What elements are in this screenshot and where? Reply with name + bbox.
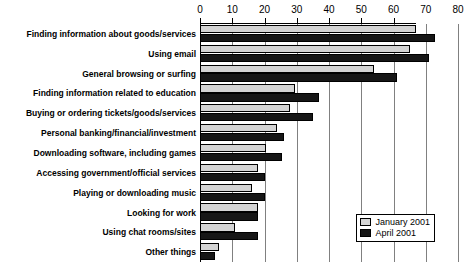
bar-january xyxy=(200,203,258,211)
legend: January 2001 April 2001 xyxy=(356,214,435,242)
bar-january xyxy=(200,124,277,132)
bar-january xyxy=(200,164,258,172)
bar-april xyxy=(200,93,319,101)
bar-january xyxy=(200,223,235,231)
bar-chart: 01020304050607080 Finding information ab… xyxy=(0,0,470,273)
bar-april xyxy=(200,252,215,260)
bar-january xyxy=(200,144,266,152)
bar-april xyxy=(200,73,397,81)
legend-swatch-april xyxy=(360,229,371,237)
x-axis-line xyxy=(200,23,416,24)
bar-april xyxy=(200,212,258,220)
legend-item-january: January 2001 xyxy=(360,217,430,228)
legend-label-january: January 2001 xyxy=(375,217,430,227)
bar-april xyxy=(200,173,265,181)
bar-april xyxy=(200,153,282,161)
bar-april xyxy=(200,34,435,42)
legend-swatch-january xyxy=(360,218,371,226)
bar-january xyxy=(200,184,252,192)
bar-january xyxy=(200,65,374,73)
bar-april xyxy=(200,113,313,121)
bar-january xyxy=(200,45,410,53)
bar-january xyxy=(200,243,219,251)
bar-january xyxy=(200,25,416,33)
bar-april xyxy=(200,193,265,201)
legend-item-april: April 2001 xyxy=(360,228,430,239)
bar-april xyxy=(200,54,429,62)
bar-april xyxy=(200,133,284,141)
legend-label-april: April 2001 xyxy=(375,228,416,238)
bar-january xyxy=(200,84,295,92)
bar-january xyxy=(200,104,290,112)
bar-april xyxy=(200,232,258,240)
